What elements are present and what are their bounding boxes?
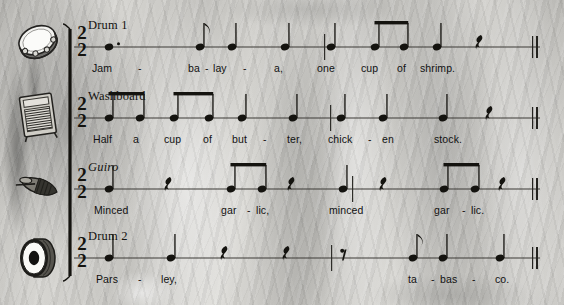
barline-guiro bbox=[352, 176, 353, 202]
lyric-syllable-guiro-1: gar bbox=[221, 204, 236, 216]
lyric-syllable-drum1-6: of bbox=[397, 62, 406, 74]
final-barline-thin-guiro bbox=[532, 178, 533, 200]
note-quarter-washboard bbox=[237, 94, 247, 122]
note-quarter-washboard bbox=[438, 94, 448, 122]
note-eighth-drum1 bbox=[370, 23, 380, 51]
lyric-syllable-washboard-0: Half bbox=[93, 133, 112, 145]
lyric-hyphen-guiro-0: - bbox=[247, 204, 251, 216]
note-eighth-guiro bbox=[470, 165, 480, 193]
lyric-hyphen-drum2-1: - bbox=[431, 273, 435, 285]
lyric-syllable-washboard-3: of bbox=[203, 133, 212, 145]
lyric-syllable-drum1-4: one bbox=[317, 62, 335, 74]
lyric-syllable-drum2-1: ley, bbox=[161, 273, 177, 285]
note-quarter-guiro bbox=[338, 165, 348, 193]
note-eighth-guiro bbox=[226, 165, 236, 193]
music-notation: 22222222 bbox=[0, 0, 564, 305]
instrument-name-guiro: Guiro bbox=[88, 160, 118, 175]
final-barline-thick-drum2 bbox=[536, 247, 538, 269]
lyric-hyphen-washboard-1: - bbox=[368, 133, 372, 145]
instrument-name-washboard: Washboard bbox=[88, 89, 146, 104]
lyric-syllable-guiro-4: gar bbox=[434, 204, 449, 216]
final-barline-thin-washboard bbox=[532, 107, 533, 129]
note-quarter-drum1 bbox=[227, 23, 237, 51]
lyric-syllable-guiro-2: lic, bbox=[256, 204, 269, 216]
lyric-syllable-washboard-8: stock. bbox=[434, 133, 462, 145]
staff-line-guiro bbox=[74, 189, 540, 190]
lyric-syllable-washboard-5: ter, bbox=[287, 133, 302, 145]
final-barline-thin-drum2 bbox=[532, 247, 533, 269]
lyric-syllable-drum1-0: Jam bbox=[92, 62, 112, 74]
lyric-hyphen-drum2-2: - bbox=[472, 273, 476, 285]
lyric-hyphen-washboard-0: - bbox=[263, 133, 267, 145]
note-eighth-washboard bbox=[169, 94, 179, 122]
lyric-syllable-drum2-4: co. bbox=[495, 273, 509, 285]
beam-guiro bbox=[231, 163, 267, 166]
barline-washboard bbox=[330, 105, 331, 131]
lyric-syllable-washboard-6: chick bbox=[328, 133, 352, 145]
staff-line-drum1 bbox=[74, 47, 540, 48]
lyric-syllable-drum2-2: ta bbox=[408, 273, 417, 285]
note-eighth-drum1 bbox=[399, 23, 409, 51]
time-signature-lower-drum2: 2 bbox=[77, 250, 87, 271]
note-quarter-drum2 bbox=[495, 234, 505, 262]
beam-guiro bbox=[444, 163, 480, 166]
note-eighth-guiro bbox=[257, 165, 267, 193]
lyric-syllable-drum1-5: cup bbox=[361, 62, 378, 74]
note-quarter-drum2 bbox=[166, 234, 176, 262]
lyric-hyphen-drum2-0: - bbox=[138, 273, 142, 285]
system-bracket bbox=[68, 29, 71, 276]
lyric-syllable-drum2-3: bas bbox=[440, 273, 457, 285]
eighth-rest-drum2 bbox=[340, 249, 346, 261]
lyric-syllable-washboard-4: but bbox=[232, 133, 247, 145]
lyric-syllable-guiro-0: Minced bbox=[94, 204, 128, 216]
note-eighth-washboard bbox=[204, 94, 214, 122]
lyric-syllable-drum1-2: lay bbox=[213, 62, 227, 74]
note-eighth-guiro bbox=[439, 165, 449, 193]
final-barline-thick-guiro bbox=[536, 178, 538, 200]
lyric-syllable-washboard-1: a bbox=[133, 133, 139, 145]
system-bracket-bottom bbox=[63, 276, 70, 281]
lyric-syllable-drum1-1: ba bbox=[188, 62, 200, 74]
note-quarter-drum1 bbox=[326, 23, 336, 51]
lyric-syllable-drum1-7: shrimp. bbox=[420, 62, 455, 74]
note-quarter-drum1 bbox=[432, 23, 442, 51]
final-barline-thin-drum1 bbox=[532, 36, 533, 58]
lyric-syllable-washboard-7: en bbox=[382, 133, 394, 145]
note-quarter-drum2 bbox=[438, 234, 448, 262]
lyric-syllable-drum2-0: Pars bbox=[96, 273, 118, 285]
barline-drum2 bbox=[331, 245, 332, 271]
note-quarter-washboard bbox=[288, 94, 298, 122]
time-signature-lower-washboard: 2 bbox=[77, 110, 87, 131]
instrument-name-drum2: Drum 2 bbox=[88, 229, 128, 244]
lyric-hyphen-drum1-0: - bbox=[138, 62, 142, 74]
lyric-hyphen-drum1-2: - bbox=[243, 62, 247, 74]
note-quarter-washboard bbox=[378, 94, 388, 122]
system-bracket-top bbox=[63, 24, 70, 29]
note-quarter-washboard bbox=[336, 94, 346, 122]
barline-drum1 bbox=[324, 34, 325, 60]
lyric-hyphen-drum1-1: - bbox=[205, 62, 209, 74]
note-quarter-drum1 bbox=[280, 23, 290, 51]
final-barline-thick-drum1 bbox=[536, 36, 538, 58]
final-barline-thick-washboard bbox=[536, 107, 538, 129]
beam-washboard bbox=[174, 92, 214, 95]
lyric-syllable-guiro-3: minced bbox=[329, 204, 363, 216]
time-signature-lower-guiro: 2 bbox=[77, 181, 87, 202]
score-sheet: 22222222 Drum 1Jambalaya,onecupofshrimp.… bbox=[0, 0, 564, 305]
lyric-hyphen-guiro-1: - bbox=[462, 204, 466, 216]
instrument-name-drum1: Drum 1 bbox=[88, 18, 128, 33]
lyric-syllable-washboard-2: cup bbox=[164, 133, 181, 145]
staff-line-drum2 bbox=[74, 258, 540, 259]
lyric-syllable-drum1-3: a, bbox=[274, 62, 283, 74]
lyric-syllable-guiro-5: lic. bbox=[471, 204, 484, 216]
time-signature-lower-drum1: 2 bbox=[77, 39, 87, 60]
